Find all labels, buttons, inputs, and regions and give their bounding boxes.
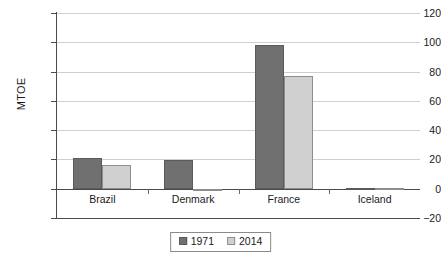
legend-swatch-icon <box>179 237 187 245</box>
bar-france-2014 <box>284 76 313 189</box>
bar-iceland-2014 <box>375 188 404 190</box>
legend-entry-1971[interactable]: 1971 <box>179 236 214 247</box>
gridline <box>57 101 420 102</box>
gridline <box>57 159 420 160</box>
bar-france-1971 <box>255 45 284 189</box>
gridline <box>57 130 420 131</box>
gridline <box>57 42 420 43</box>
gridline <box>57 13 420 14</box>
legend-label: 2014 <box>239 236 262 247</box>
category-separator-tick <box>148 189 149 194</box>
x-axis-bottom-line <box>56 218 420 219</box>
gridline <box>57 72 420 73</box>
chart-legend: 19712014 <box>170 232 272 252</box>
category-separator-tick <box>329 189 330 194</box>
category-label-denmark: Denmark <box>148 194 239 205</box>
bar-chart-figure: MTOE 120100806040200−20 BrazilDenmarkFra… <box>0 0 441 260</box>
bar-denmark-1971 <box>164 160 193 189</box>
category-separator-tick <box>239 189 240 194</box>
category-label-brazil: Brazil <box>57 194 148 205</box>
bar-iceland-1971 <box>346 188 375 190</box>
category-label-france: France <box>239 194 330 205</box>
legend-swatch-icon <box>227 237 235 245</box>
bar-brazil-2014 <box>102 165 131 188</box>
y-axis-title: MTOE <box>15 72 27 116</box>
category-label-iceland: Iceland <box>329 194 420 205</box>
bar-denmark-2014 <box>193 189 222 191</box>
legend-entry-2014[interactable]: 2014 <box>227 236 262 247</box>
bar-brazil-1971 <box>73 158 102 189</box>
legend-label: 1971 <box>191 236 214 247</box>
